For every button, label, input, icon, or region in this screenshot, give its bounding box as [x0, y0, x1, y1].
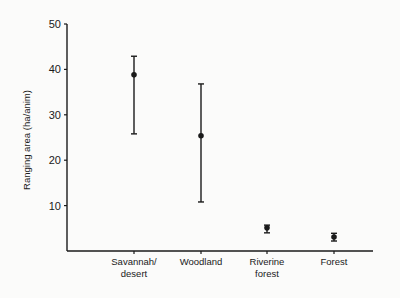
data-points	[131, 56, 337, 241]
y-tick-label: 50	[49, 18, 61, 30]
x-category-label: Woodland	[180, 256, 223, 267]
chart: 1020304050 Savannah/desertWoodlandRiveri…	[0, 0, 400, 298]
mean-marker	[131, 72, 137, 78]
y-tick-label: 40	[49, 63, 61, 75]
data-point	[131, 56, 137, 134]
y-tick-label: 30	[49, 109, 61, 121]
y-tick-label: 10	[49, 200, 61, 212]
y-axis: 1020304050	[49, 18, 67, 251]
data-point	[198, 84, 204, 202]
data-point	[331, 233, 337, 241]
data-point	[264, 225, 270, 233]
x-axis: Savannah/desertWoodlandRiverineforestFor…	[67, 251, 373, 279]
y-tick-label: 20	[49, 154, 61, 166]
x-category-label: Riverineforest	[250, 256, 285, 279]
mean-marker	[331, 234, 337, 240]
x-category-label: Forest	[321, 256, 348, 267]
mean-marker	[264, 225, 270, 231]
y-axis-title: Ranging area (ha/anim)	[21, 90, 32, 190]
x-category-label: Savannah/desert	[111, 256, 157, 279]
mean-marker	[198, 133, 204, 139]
